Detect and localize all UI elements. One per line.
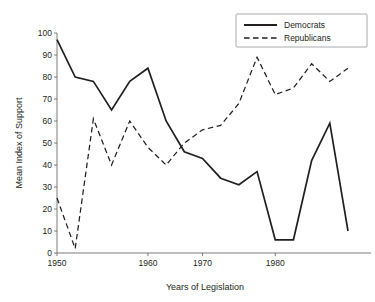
y-tick-label: 10 <box>43 226 53 236</box>
y-tick-label: 100 <box>38 28 52 38</box>
y-tick-label: 0 <box>47 248 52 258</box>
y-tick-label: 30 <box>43 182 53 192</box>
chart-legend: Democrats Republicans <box>236 14 367 47</box>
x-axis-tick-labels: 1950196019701980 <box>48 258 285 268</box>
x-axis-title: Years of Legislation <box>166 282 244 292</box>
y-tick-label: 20 <box>43 204 53 214</box>
y-tick-label: 50 <box>43 138 53 148</box>
legend-label-republicans: Republicans <box>284 33 331 43</box>
y-tick-label: 40 <box>43 160 53 170</box>
x-tick-label: 1980 <box>266 258 285 268</box>
line-chart: 0102030405060708090100 1950196019701980 … <box>0 0 375 302</box>
series-line-democrats <box>57 40 348 240</box>
y-tick-label: 60 <box>43 116 53 126</box>
legend-label-democrats: Democrats <box>284 20 325 30</box>
y-tick-label: 70 <box>43 94 53 104</box>
data-series-group <box>57 40 348 249</box>
y-tick-label: 80 <box>43 72 53 82</box>
series-line-republicans <box>57 57 348 248</box>
x-tick-label: 1970 <box>193 258 212 268</box>
y-axis-tick-labels: 0102030405060708090100 <box>38 28 52 258</box>
y-tick-label: 90 <box>43 50 53 60</box>
x-tick-label: 1960 <box>138 258 157 268</box>
chart-figure: 0102030405060708090100 1950196019701980 … <box>0 0 375 302</box>
x-tick-label: 1950 <box>48 258 67 268</box>
y-axis-title: Mean Index of Support <box>14 97 24 189</box>
